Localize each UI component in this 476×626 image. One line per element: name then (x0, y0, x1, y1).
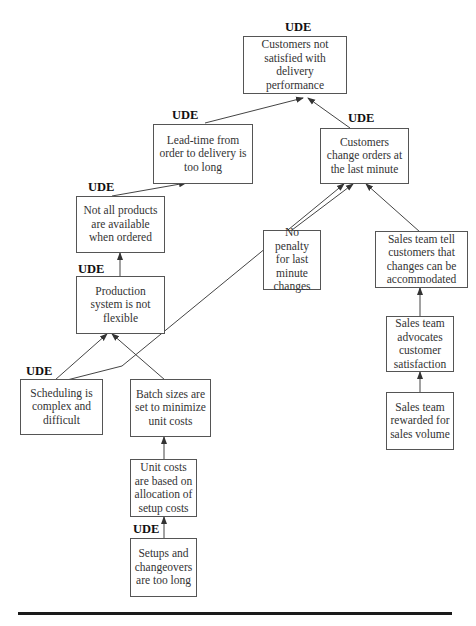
edge-n11-n3 (366, 184, 420, 232)
ude-label-n3: UDE (348, 111, 374, 126)
node-no-penalty: No penalty for last minute changes (263, 230, 321, 290)
node-sales-team-rewarded: Sales team rewarded for sales volume (386, 392, 454, 450)
node-text: Scheduling is complex and difficult (24, 387, 99, 428)
node-text: No penalty for last minute changes (267, 226, 317, 294)
node-text: Customers not satisfied with delivery pe… (247, 38, 343, 92)
node-products-not-available: Not all products are available when orde… (76, 196, 165, 253)
bottom-rule (18, 612, 452, 615)
node-scheduling-complex: Scheduling is complex and difficult (20, 379, 103, 435)
ude-label-n2: UDE (172, 108, 198, 123)
node-text: Not all products are available when orde… (80, 204, 161, 245)
node-production-not-flexible: Production system is not flexible (76, 276, 165, 334)
node-batch-sizes: Batch sizes are set to minimize unit cos… (130, 379, 211, 437)
edge-n10-n3 (292, 184, 353, 230)
connector-layer (0, 0, 476, 626)
node-text: Setups and changeovers are too long (134, 547, 193, 588)
node-customers-not-satisfied: Customers not satisfied with delivery pe… (243, 36, 347, 94)
node-text: Sales team rewarded for sales volume (390, 401, 450, 442)
node-unit-costs: Unit costs are based on allocation of se… (130, 459, 197, 517)
node-text: Unit costs are based on allocation of se… (134, 461, 193, 515)
edge-n7-n5 (112, 334, 165, 380)
node-sales-team-advocates: Sales team advocates customer satisfacti… (386, 316, 454, 372)
ude-label-n4: UDE (88, 180, 114, 195)
node-text: Production system is not flexible (80, 285, 161, 326)
node-text: Batch sizes are set to minimize unit cos… (134, 388, 207, 429)
ude-label-n5: UDE (78, 262, 104, 277)
node-text: Sales team tell customers that changes c… (379, 233, 464, 287)
ude-label-n9: UDE (133, 522, 159, 537)
ude-label-n6: UDE (26, 364, 52, 379)
edge-n4-n2 (112, 183, 186, 196)
ude-label-n1: UDE (285, 20, 311, 35)
node-text: Lead-time from order to delivery is too … (157, 134, 249, 175)
edge-n3-n1 (308, 98, 350, 128)
node-text: Customers change orders at the last minu… (324, 136, 405, 177)
edge-n6-n5 (55, 334, 107, 380)
node-lead-time-too-long: Lead-time from order to delivery is too … (153, 124, 253, 184)
node-sales-team-tell-customers: Sales team tell customers that changes c… (375, 231, 468, 288)
node-text: Sales team advocates customer satisfacti… (390, 317, 450, 371)
edge-n2-n1 (205, 98, 303, 123)
node-customers-change-orders: Customers change orders at the last minu… (320, 128, 409, 184)
node-setups-too-long: Setups and changeovers are too long (130, 538, 197, 597)
